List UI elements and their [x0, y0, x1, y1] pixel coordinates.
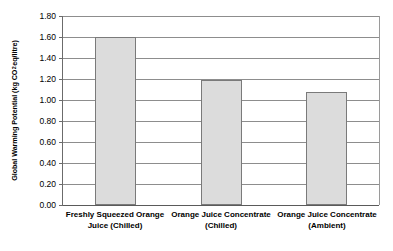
y-axis-tick-mark: [59, 205, 63, 206]
y-axis-tick-label: 1.80: [20, 12, 56, 21]
y-axis-tick-label: 0.00: [20, 201, 56, 210]
y-axis-tick-label: 0.80: [20, 117, 56, 126]
y-axis-title-subscript: 2: [12, 66, 17, 70]
bar: [306, 92, 347, 205]
y-axis-tick-label: 1.20: [20, 75, 56, 84]
y-axis-tick-label: 1.60: [20, 33, 56, 42]
y-axis-tick-label: 0.60: [20, 138, 56, 147]
y-axis-tick-label: 0.20: [20, 180, 56, 189]
x-axis-category-label: Orange Juice Concentrate (Chilled): [168, 209, 274, 243]
y-axis-tick-labels: 1.801.601.401.201.000.800.600.400.200.00: [20, 16, 56, 205]
plot-area: [62, 16, 380, 205]
bar: [201, 80, 242, 205]
bar: [95, 37, 136, 205]
x-axis-category-label: Freshly Squeezed Orange Juice (Chilled): [62, 209, 168, 243]
x-axis-line: [63, 205, 379, 206]
x-axis-category-labels: Freshly Squeezed Orange Juice (Chilled)O…: [62, 209, 380, 243]
y-axis-tick-label: 1.40: [20, 54, 56, 63]
y-axis-title-suffix: eq/litre): [11, 40, 18, 66]
x-axis-category-label: Orange Juice Concentrate (Ambient): [274, 209, 380, 243]
y-axis-title-prefix: Global Warming Potential (kg CO: [11, 70, 18, 181]
y-axis-tick-label: 1.00: [20, 96, 56, 105]
bars: [63, 16, 379, 205]
bar-chart: Global Warming Potential (kg CO2 eq/litr…: [0, 0, 393, 251]
y-axis-tick-label: 0.40: [20, 159, 56, 168]
